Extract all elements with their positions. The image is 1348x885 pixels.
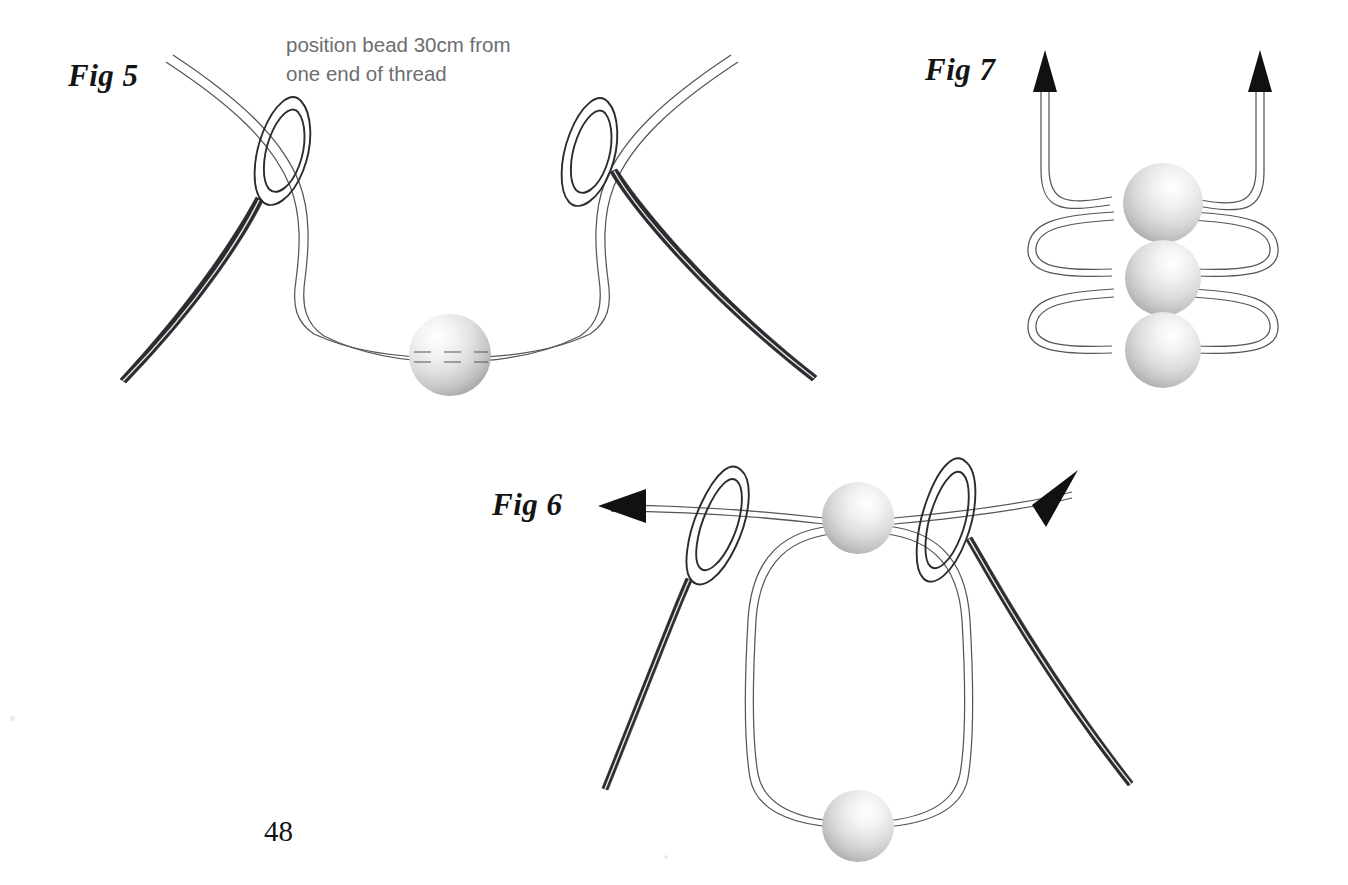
fig5-caption: position bead 30cm from one end of threa…	[286, 30, 510, 88]
illustration-page: Fig 5 position bead 30cm from one end of…	[0, 0, 1348, 885]
fig6-bead-top	[822, 482, 894, 554]
fig5-needle-left-shaft	[120, 197, 263, 383]
fig7-arrow-left	[1033, 50, 1057, 92]
fig6-arrowhead-left	[598, 489, 646, 523]
fig6-label: Fig 6	[492, 487, 563, 523]
fig6-loop-thread	[745, 525, 973, 828]
fig7-illustration	[1028, 50, 1278, 388]
page-number: 48	[264, 815, 293, 848]
fig5-bead	[409, 314, 491, 396]
scan-speck	[664, 855, 668, 859]
fig6-bead-bottom	[822, 790, 894, 862]
fig7-label: Fig 7	[925, 52, 996, 88]
fig5-needle-left	[120, 97, 310, 383]
fig5-label: Fig 5	[68, 58, 139, 94]
fig5-needle-right	[562, 98, 817, 381]
fig6-illustration	[598, 458, 1133, 862]
figures-svg	[0, 0, 1348, 885]
fig7-arrow-right	[1248, 50, 1272, 92]
fig5-needle-right-shaft	[610, 169, 817, 381]
fig5-illustration	[120, 55, 817, 396]
fig7-bead-bottom	[1125, 312, 1201, 388]
fig7-bead-middle	[1125, 240, 1201, 316]
scan-speck	[10, 716, 15, 721]
fig7-bead-top	[1123, 163, 1203, 243]
